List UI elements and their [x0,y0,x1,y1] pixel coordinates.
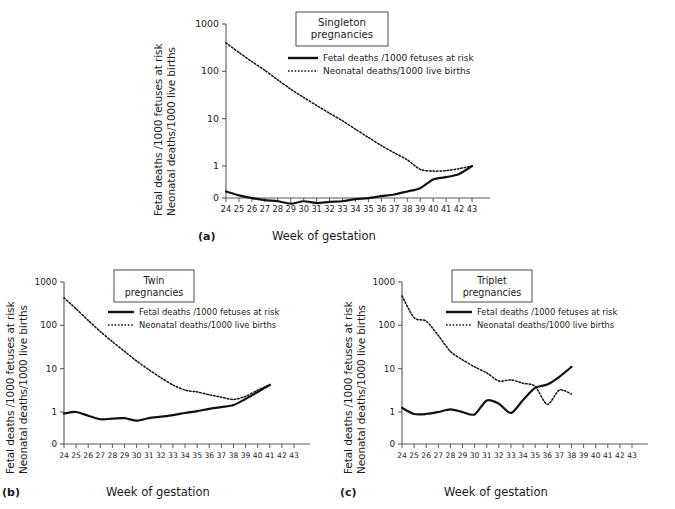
x-tick-label: 27 [433,451,443,460]
legend-label-fetal: Fetal deaths /1000 fetuses at risk [477,307,617,317]
x-tick-label: 39 [241,451,251,460]
panel-singleton: Fetal deaths /1000 fetuses at risk Neona… [150,2,550,250]
panel-title-line2: pregnancies [125,287,184,298]
plot-area-twin: 1000100101024252627282930313233343536373… [2,262,332,486]
series-line-fetal [64,385,270,421]
x-tick-label: 27 [260,204,270,214]
legend-label-neonatal: Neonatal deaths/1000 live births [323,66,471,76]
x-tick-label: 31 [311,204,321,214]
y-tick-label: 1000 [195,18,219,29]
panel-letter-c: (c) [340,486,357,499]
x-tick-label: 42 [454,204,464,214]
x-tick-label: 29 [286,204,296,214]
x-tick-label: 24 [221,204,231,214]
x-tick-label: 28 [446,451,456,460]
y-tick-label-zero: 0 [389,439,395,449]
y-tick-label-zero: 0 [51,439,57,449]
panel-title-line1: Triplet [476,275,507,286]
x-tick-label: 34 [518,451,528,460]
legend-label-fetal: Fetal deaths /1000 fetuses at risk [139,307,279,317]
x-tick-label: 31 [482,451,492,460]
x-tick-label: 39 [415,204,425,214]
x-tick-label: 30 [470,451,480,460]
panel-letter-a: (a) [198,230,215,243]
x-tick-label: 40 [591,451,601,460]
y-axis-label-b-line2: Neonatal deaths/1000 live births [17,302,30,474]
x-tick-label: 34 [350,204,360,214]
x-tick-label: 39 [579,451,589,460]
panel-title-line1: Singleton [318,17,366,28]
x-tick-label: 37 [217,451,227,460]
x-tick-label: 43 [467,204,477,214]
plot-area-triplet: 1000100101024252627282930313233343536373… [340,262,670,486]
x-tick-label: 32 [156,451,166,460]
y-axis-label-a-line1: Fetal deaths /1000 fetuses at risk [152,44,164,216]
x-tick-label: 25 [234,204,244,214]
legend-label-neonatal: Neonatal deaths/1000 live births [477,320,614,330]
x-tick-label: 24 [397,451,407,460]
y-tick-label: 10 [207,113,219,124]
x-tick-label: 28 [108,451,118,460]
y-axis-label-b-line1: Fetal deaths /1000 fetuses at risk [4,302,16,474]
x-tick-label: 41 [265,451,275,460]
x-tick-label: 40 [253,451,263,460]
legend-label-fetal: Fetal deaths /1000 fetuses at risk [323,53,474,63]
x-tick-label: 29 [458,451,468,460]
y-tick-label: 10 [384,364,396,374]
y-tick-label: 1 [51,407,57,417]
y-tick-label-zero: 0 [213,192,219,203]
x-tick-label: 25 [71,451,81,460]
x-tick-label: 36 [542,451,552,460]
x-tick-label: 29 [120,451,130,460]
x-tick-label: 36 [204,451,214,460]
x-tick-label: 28 [273,204,283,214]
y-tick-label: 100 [40,320,57,330]
x-tick-label: 37 [555,451,565,460]
y-axis-label-c-line2: Neonatal deaths/1000 live births [355,302,368,474]
x-tick-label: 33 [337,204,347,214]
x-tick-label: 27 [95,451,105,460]
x-tick-label: 40 [428,204,438,214]
panel-title-line2: pregnancies [463,287,522,298]
x-tick-label: 30 [132,451,142,460]
x-tick-label: 36 [376,204,386,214]
x-axis-label-a: Week of gestation [272,229,376,243]
x-tick-label: 26 [247,204,257,214]
plot-area-singleton: 1000100101024252627282930313233343536373… [150,2,550,232]
x-tick-label: 26 [421,451,431,460]
x-tick-label: 42 [277,451,287,460]
x-tick-label: 35 [363,204,373,214]
y-tick-label: 10 [46,364,58,374]
y-tick-label: 100 [201,65,219,76]
y-tick-label: 1 [213,160,219,171]
y-tick-label: 1000 [35,277,58,287]
x-tick-label: 32 [494,451,504,460]
x-tick-label: 35 [192,451,202,460]
panel-twin: Fetal deaths /1000 fetuses at risk Neona… [2,262,332,507]
x-tick-label: 25 [409,451,419,460]
x-axis-label-b: Week of gestation [106,485,210,499]
x-tick-label: 37 [389,204,399,214]
panel-title-line2: pregnancies [311,29,373,40]
x-tick-label: 35 [530,451,540,460]
panel-title-line1: Twin [143,275,165,286]
panel-letter-b: (b) [2,486,20,499]
x-tick-label: 38 [402,204,412,214]
y-axis-label-c: Fetal deaths /1000 fetuses at risk Neona… [342,302,367,474]
x-tick-label: 38 [229,451,239,460]
x-tick-label: 41 [441,204,451,214]
legend-label-neonatal: Neonatal deaths/1000 live births [139,320,276,330]
x-tick-label: 42 [615,451,625,460]
y-axis-label-a: Fetal deaths /1000 fetuses at risk Neona… [152,44,177,216]
x-tick-label: 43 [627,451,637,460]
x-tick-label: 33 [506,451,516,460]
panel-triplet: Fetal deaths /1000 fetuses at risk Neona… [340,262,670,507]
figure-caption-partial [2,500,402,509]
y-axis-label-c-line1: Fetal deaths /1000 fetuses at risk [342,302,354,474]
x-axis-label-c: Week of gestation [444,485,548,499]
x-tick-label: 43 [289,451,299,460]
x-tick-label: 32 [324,204,334,214]
series-line-fetal [402,367,571,415]
x-tick-label: 31 [144,451,154,460]
x-tick-label: 41 [603,451,613,460]
